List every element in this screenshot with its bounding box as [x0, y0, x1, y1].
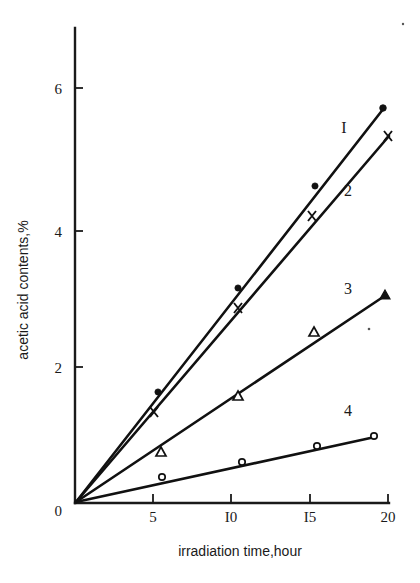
data-point — [380, 290, 390, 299]
data-point — [384, 131, 392, 141]
y-tick-label-0: 0 — [55, 503, 63, 519]
scan-speck — [368, 328, 371, 331]
acetic-acid-vs-irradiation-time-chart: 6 4 2 0 5 I0 I5 20 — [0, 0, 420, 583]
data-point — [239, 459, 245, 465]
y-tick-label-6: 6 — [55, 81, 63, 97]
data-point — [308, 211, 316, 221]
series-label-1: I — [341, 119, 346, 136]
scan-speck — [402, 23, 404, 25]
series-line-4 — [76, 437, 375, 502]
data-point — [155, 389, 161, 395]
series-label-3: 3 — [344, 280, 352, 297]
data-point — [309, 327, 319, 336]
x-tick-label-10: I0 — [225, 509, 238, 525]
y-tick-label-2: 2 — [55, 360, 63, 376]
x-axis-title: irradiation time,hour — [178, 543, 302, 559]
series-4-markers — [159, 433, 377, 480]
y-tick-label-4: 4 — [55, 224, 63, 240]
series-label-2: 2 — [344, 182, 352, 199]
data-point — [159, 474, 165, 480]
data-point — [235, 285, 241, 291]
series-label-4: 4 — [344, 402, 352, 419]
series-line-3 — [76, 295, 386, 502]
data-point — [380, 105, 387, 112]
x-tick-label-20: 20 — [381, 509, 396, 525]
series-line-2 — [76, 136, 389, 502]
x-tick-label-15: I5 — [304, 509, 317, 525]
data-point — [150, 407, 158, 417]
y-axis-title: acetic acid contents,% — [15, 220, 31, 359]
x-tick-label-5: 5 — [149, 509, 157, 525]
data-point — [314, 443, 320, 449]
data-point — [312, 183, 318, 189]
data-point — [371, 433, 377, 439]
chart-figure: 6 4 2 0 5 I0 I5 20 — [0, 0, 420, 583]
series-line-1 — [76, 108, 384, 502]
